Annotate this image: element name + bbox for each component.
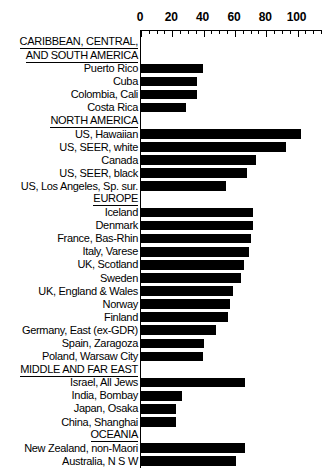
category-label: US, SEER, black: [0, 167, 140, 180]
minor-tick: [180, 30, 181, 34]
minor-tick: [274, 30, 275, 34]
bar: [141, 417, 176, 427]
row-plot-area: [140, 298, 335, 311]
label-line: UK, England & Wales: [38, 285, 138, 298]
group-header-row: NORTH AMERICA: [0, 114, 335, 127]
group-header-row: OCEANIA: [0, 429, 335, 442]
row-plot-area: [140, 455, 335, 468]
category-label: Cuba: [0, 75, 140, 88]
label-line: UK, Scotland: [77, 258, 138, 271]
bar: [141, 339, 204, 349]
category-label: US, Hawaiian: [0, 127, 140, 140]
minor-tick: [251, 30, 252, 34]
row-plot-area: [140, 324, 335, 337]
group-header-row: CARIBBEAN, CENTRAL,AND SOUTH AMERICA: [0, 36, 335, 62]
bar: [141, 352, 203, 362]
group-header-row: EUROPE: [0, 193, 335, 206]
bar: [141, 378, 245, 388]
label-line: Poland, Warsaw City: [42, 350, 138, 363]
bar: [141, 168, 247, 178]
label-line: CARIBBEAN, CENTRAL,: [20, 35, 138, 49]
bar: [141, 64, 203, 74]
label-line: Colombia, Cali: [71, 88, 138, 101]
data-row: Japan, Osaka: [0, 402, 335, 415]
label-line: OCEANIA: [91, 428, 138, 442]
label-line: Cuba: [113, 75, 138, 88]
category-label: Denmark: [0, 219, 140, 232]
row-plot-area: [140, 337, 335, 350]
row-plot-area: [140, 219, 335, 232]
data-row: Iceland: [0, 206, 335, 219]
label-line: Puerto Rico: [84, 62, 138, 75]
bar: [141, 443, 245, 453]
label-line: MIDDLE AND FAR EAST: [20, 363, 138, 377]
data-row: US, Hawaiian: [0, 127, 335, 140]
group-header-label: EUROPE: [0, 193, 140, 206]
label-line: Spain, Zaragoza: [62, 337, 138, 350]
label-line: Denmark: [95, 219, 138, 232]
label-line: US, Hawaiian: [75, 128, 138, 141]
bar: [141, 142, 286, 152]
group-header-label: OCEANIA: [0, 429, 140, 442]
label-line: Sweden: [100, 272, 138, 285]
data-row: Poland, Warsaw City: [0, 350, 335, 363]
x-axis-tick-labels: 020406080100: [140, 10, 335, 26]
minor-tick: [282, 30, 283, 34]
x-tick-label-80: 80: [259, 10, 272, 24]
chart-rows: CARIBBEAN, CENTRAL,AND SOUTH AMERICAPuer…: [0, 36, 335, 468]
category-label: Puerto Rico: [0, 62, 140, 75]
bar: [141, 456, 236, 466]
row-plot-area: [140, 285, 335, 298]
data-row: Israel, All Jews: [0, 376, 335, 389]
row-plot-area: [140, 272, 335, 285]
category-label: France, Bas-Rhin: [0, 232, 140, 245]
category-label: Iceland: [0, 206, 140, 219]
bar: [141, 247, 249, 257]
row-plot-area: [140, 442, 335, 455]
category-label: UK, Scotland: [0, 258, 140, 271]
data-row: Denmark: [0, 219, 335, 232]
minor-tick: [219, 30, 220, 34]
bar: [141, 404, 176, 414]
minor-tick: [243, 30, 244, 34]
data-row: Australia, N S W: [0, 455, 335, 468]
minor-tick: [211, 30, 212, 34]
row-plot-area: [140, 429, 335, 442]
bar: [141, 273, 241, 283]
minor-tick: [196, 30, 197, 34]
row-plot-area: [140, 88, 335, 101]
label-line: AND SOUTH AMERICA: [26, 49, 138, 63]
bar: [141, 77, 197, 87]
minor-tick: [157, 30, 158, 34]
row-plot-area: [140, 167, 335, 180]
row-plot-area: [140, 402, 335, 415]
group-header-label: MIDDLE AND FAR EAST: [0, 363, 140, 376]
category-label: Poland, Warsaw City: [0, 350, 140, 363]
bar: [141, 208, 253, 218]
bar: [141, 221, 253, 231]
data-row: France, Bas-Rhin: [0, 232, 335, 245]
category-label: India, Bombay: [0, 389, 140, 402]
minor-tick: [313, 30, 314, 34]
bar: [141, 155, 256, 165]
category-label: Italy, Varese: [0, 245, 140, 258]
row-plot-area: [140, 258, 335, 271]
data-row: Finland: [0, 311, 335, 324]
category-label: US, SEER, white: [0, 141, 140, 154]
data-row: Colombia, Cali: [0, 88, 335, 101]
category-label: Colombia, Cali: [0, 88, 140, 101]
row-plot-area: [140, 363, 335, 376]
label-line: India, Bombay: [72, 389, 138, 402]
group-header-row: MIDDLE AND FAR EAST: [0, 363, 335, 376]
category-label: New Zealand, non-Maori: [0, 442, 140, 455]
label-line: Germany, East (ex-GDR): [22, 324, 138, 337]
label-line: Japan, Osaka: [74, 402, 138, 415]
bar: [141, 312, 228, 322]
row-plot-area: [140, 75, 335, 88]
x-tick-label-20: 20: [165, 10, 178, 24]
row-plot-area: [140, 232, 335, 245]
label-line: Costa Rica: [87, 101, 138, 114]
label-line: EUROPE: [93, 192, 138, 206]
minor-tick: [188, 30, 189, 34]
row-plot-area: [140, 62, 335, 75]
